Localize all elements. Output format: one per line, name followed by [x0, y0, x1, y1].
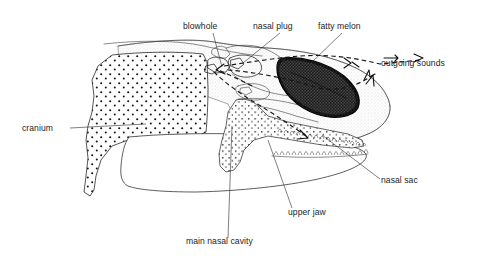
label-cranium: cranium	[22, 123, 53, 133]
anatomy-diagram: blowhole nasal plug fatty melon outgoing…	[0, 0, 485, 262]
diagram-canvas: blowhole nasal plug fatty melon outgoing…	[0, 0, 485, 262]
label-outgoing-sounds: outgoing sounds	[381, 58, 445, 68]
label-main-nasal-cavity: main nasal cavity	[186, 236, 253, 246]
label-fatty-melon: fatty melon	[318, 21, 361, 31]
label-blowhole: blowhole	[183, 21, 217, 31]
label-nasal-sac: nasal sac	[381, 175, 418, 185]
label-nasal-plug: nasal plug	[253, 21, 293, 31]
label-upper-jaw: upper jaw	[288, 207, 326, 217]
